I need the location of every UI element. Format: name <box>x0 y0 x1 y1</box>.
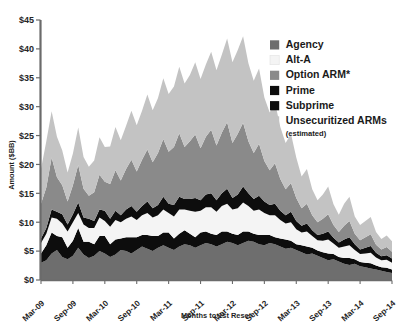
y-tick-label: $5 <box>24 246 34 256</box>
legend-swatch-option-arm <box>270 71 279 80</box>
legend-swatch-prime <box>270 86 279 95</box>
legend-label-subprime: Subprime <box>286 99 335 111</box>
y-tick-label: $40 <box>19 44 34 54</box>
legend-label-prime: Prime <box>286 84 315 96</box>
y-tick-label: $10 <box>19 218 34 228</box>
y-tick-label: $15 <box>19 189 34 199</box>
y-tick-label: $30 <box>19 102 34 112</box>
legend-swatch-agency <box>270 40 279 49</box>
legend-label-agency: Agency <box>286 38 324 50</box>
stacked-area-chart: $0$5$10$15$20$25$30$35$40$45 Mar-09Sep-0… <box>0 0 412 335</box>
legend-label-unsecuritized-arms: Unsecuritized ARMs <box>286 114 387 126</box>
y-axis-title: Amount ($BB) <box>7 140 16 190</box>
legend-swatch-alt-a <box>270 56 279 65</box>
chart-container: $0$5$10$15$20$25$30$35$40$45 Mar-09Sep-0… <box>0 0 412 335</box>
y-tick-label: $35 <box>19 73 34 83</box>
legend-swatch-subprime <box>270 101 279 110</box>
y-tick-label: $20 <box>19 160 34 170</box>
y-tick-label: $0 <box>24 275 34 285</box>
legend-label-alt-a: Alt-A <box>286 53 311 65</box>
y-tick-label: $45 <box>19 15 34 25</box>
legend-sublabel-estimated: (estimated) <box>286 129 327 138</box>
x-axis-title: Months to 1st Reset <box>181 311 252 320</box>
legend-swatch-unsecuritized-arms <box>270 116 279 125</box>
legend-label-option-arm: Option ARM* <box>286 68 351 80</box>
y-tick-label: $25 <box>19 131 34 141</box>
